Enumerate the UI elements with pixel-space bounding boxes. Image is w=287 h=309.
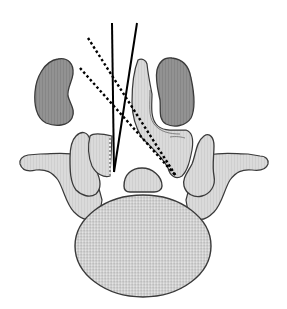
right-kidney — [156, 58, 194, 126]
vertebral-body — [75, 195, 211, 297]
spinal-canal-segment — [124, 168, 162, 192]
left-kidney — [35, 59, 74, 126]
diagram-canvas — [0, 0, 287, 309]
trajectory-solid-vertical — [112, 23, 114, 172]
vertebra-diagram — [0, 0, 287, 309]
